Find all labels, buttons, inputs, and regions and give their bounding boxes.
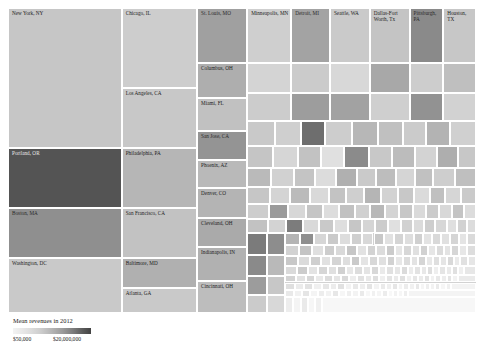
treemap-cell-unlabeled[interactable] xyxy=(401,219,413,233)
treemap-cell-unlabeled[interactable] xyxy=(403,121,426,145)
treemap-cell[interactable]: St. Louis, MO xyxy=(197,8,247,63)
treemap-cell[interactable]: Indianapolis, IN xyxy=(197,247,247,281)
treemap-cell-unlabeled[interactable] xyxy=(331,256,341,266)
treemap-cell-unlabeled[interactable] xyxy=(386,245,395,256)
treemap-cell[interactable]: Cincinnati, OH xyxy=(197,281,247,313)
treemap-cell-unlabeled[interactable] xyxy=(323,204,339,219)
treemap-cell[interactable]: Chicago, IL xyxy=(122,8,197,88)
treemap-cell-unlabeled[interactable] xyxy=(458,146,476,168)
treemap-cell-unlabeled[interactable] xyxy=(395,256,403,266)
treemap-cell-unlabeled[interactable] xyxy=(370,63,410,94)
treemap-cell-unlabeled[interactable] xyxy=(381,187,398,204)
treemap-cell-unlabeled[interactable] xyxy=(247,63,291,94)
treemap-cell-unlabeled[interactable] xyxy=(426,121,450,145)
treemap-cell-unlabeled[interactable] xyxy=(415,146,437,168)
treemap-cell-unlabeled[interactable] xyxy=(247,168,271,187)
treemap-cell-unlabeled[interactable] xyxy=(318,266,327,275)
treemap-cell-unlabeled[interactable] xyxy=(291,63,330,94)
treemap-cell-unlabeled[interactable] xyxy=(315,297,322,313)
treemap-cell-unlabeled[interactable] xyxy=(329,187,347,204)
treemap-cell-unlabeled[interactable] xyxy=(325,290,332,297)
treemap-cell-unlabeled[interactable] xyxy=(394,266,401,275)
treemap-cell-unlabeled[interactable] xyxy=(376,168,396,187)
treemap-cell-unlabeled[interactable] xyxy=(354,266,362,275)
treemap-cell-unlabeled[interactable] xyxy=(455,168,476,187)
treemap-cell-unlabeled[interactable] xyxy=(457,219,467,233)
treemap-cell[interactable]: Minneapolis, MN xyxy=(247,8,291,63)
treemap-cell-unlabeled[interactable] xyxy=(370,204,385,219)
treemap-cell-unlabeled[interactable] xyxy=(315,168,336,187)
treemap-cell-unlabeled[interactable] xyxy=(247,295,267,313)
treemap-cell-unlabeled[interactable] xyxy=(349,275,357,283)
treemap-cell-unlabeled[interactable] xyxy=(403,245,411,256)
treemap-cell-unlabeled[interactable] xyxy=(452,204,464,219)
treemap-cell-unlabeled[interactable] xyxy=(285,275,296,283)
treemap-cell-unlabeled[interactable] xyxy=(459,233,467,245)
treemap-cell-unlabeled[interactable] xyxy=(369,146,392,168)
treemap-cell-unlabeled[interactable] xyxy=(296,275,306,283)
treemap-cell-unlabeled[interactable] xyxy=(318,290,325,297)
treemap-cell-unlabeled[interactable] xyxy=(285,266,297,275)
treemap-cell-unlabeled[interactable] xyxy=(294,290,302,297)
treemap-cell-unlabeled[interactable] xyxy=(467,219,476,233)
treemap-cell-unlabeled[interactable] xyxy=(451,245,458,256)
treemap-cell-unlabeled[interactable] xyxy=(360,256,369,266)
treemap-cell[interactable]: Seattle, WA xyxy=(330,8,370,63)
treemap-cell-unlabeled[interactable] xyxy=(319,219,334,233)
treemap-cell-unlabeled[interactable] xyxy=(428,245,436,256)
treemap-cell-unlabeled[interactable] xyxy=(357,168,377,187)
treemap-cell-unlabeled[interactable] xyxy=(247,276,267,294)
treemap-cell-unlabeled[interactable] xyxy=(444,245,451,256)
treemap-cell-unlabeled[interactable] xyxy=(337,283,344,290)
treemap-cell-unlabeled[interactable] xyxy=(352,283,359,290)
treemap-cell-unlabeled[interactable] xyxy=(324,245,335,256)
treemap-cell-unlabeled[interactable] xyxy=(443,93,476,121)
treemap-cell-unlabeled[interactable] xyxy=(374,233,384,245)
treemap-cell-unlabeled[interactable] xyxy=(285,283,295,290)
treemap-cell-unlabeled[interactable] xyxy=(273,146,297,168)
treemap-cell-unlabeled[interactable] xyxy=(308,266,318,275)
treemap-cell-unlabeled[interactable] xyxy=(371,266,379,275)
treemap-cell-unlabeled[interactable] xyxy=(325,121,352,145)
treemap-cell-unlabeled[interactable] xyxy=(411,256,418,266)
treemap-cell[interactable]: Portland, OR xyxy=(8,148,122,208)
treemap-cell-unlabeled[interactable] xyxy=(341,275,349,283)
treemap-cell-unlabeled[interactable] xyxy=(450,233,458,245)
treemap-cell-unlabeled[interactable] xyxy=(298,146,321,168)
treemap-cell-unlabeled[interactable] xyxy=(291,93,330,121)
treemap-cell-unlabeled[interactable] xyxy=(324,275,332,283)
treemap-cell-unlabeled[interactable] xyxy=(367,245,376,256)
treemap-cell-unlabeled[interactable] xyxy=(379,266,386,275)
treemap-cell[interactable]: Baltimore, MD xyxy=(122,258,197,288)
treemap-cell-unlabeled[interactable] xyxy=(301,297,308,313)
treemap-cell-unlabeled[interactable] xyxy=(348,219,362,233)
treemap-cell-unlabeled[interactable] xyxy=(415,168,434,187)
treemap-cell-unlabeled[interactable] xyxy=(410,63,444,94)
treemap-cell-unlabeled[interactable] xyxy=(301,121,325,145)
treemap-cell[interactable]: Washington, DC xyxy=(8,258,122,313)
treemap-cell-unlabeled[interactable] xyxy=(339,204,355,219)
treemap-cell-unlabeled[interactable] xyxy=(423,233,432,245)
treemap-cell-unlabeled[interactable] xyxy=(387,256,395,266)
treemap-cell-unlabeled[interactable] xyxy=(441,233,450,245)
treemap-cell-unlabeled[interactable] xyxy=(247,187,269,204)
treemap-cell-unlabeled[interactable] xyxy=(339,233,351,245)
treemap-cell-unlabeled[interactable] xyxy=(420,245,428,256)
treemap-cell-unlabeled[interactable] xyxy=(293,297,301,313)
treemap-cell-unlabeled[interactable] xyxy=(352,121,378,145)
treemap-cell-unlabeled[interactable] xyxy=(308,297,315,313)
treemap-cell[interactable]: Los Angeles, CA xyxy=(122,88,197,148)
treemap-cell[interactable]: Columbus, OH xyxy=(197,63,247,98)
treemap-cell-unlabeled[interactable] xyxy=(426,256,433,266)
treemap-cell-unlabeled[interactable] xyxy=(386,266,393,275)
treemap-cell[interactable]: Cleveland, OH xyxy=(197,218,247,247)
treemap-cell-unlabeled[interactable] xyxy=(414,233,423,245)
treemap-cell-unlabeled[interactable] xyxy=(458,266,465,275)
treemap-cell-unlabeled[interactable] xyxy=(297,266,308,275)
treemap-cell-unlabeled[interactable] xyxy=(461,187,476,204)
treemap-cell-unlabeled[interactable] xyxy=(334,219,348,233)
treemap-cell[interactable]: Boston, MA xyxy=(8,208,122,258)
treemap-cell-unlabeled[interactable] xyxy=(267,295,285,313)
treemap-cell-unlabeled[interactable] xyxy=(410,93,444,121)
treemap-cell-unlabeled[interactable] xyxy=(275,121,301,145)
